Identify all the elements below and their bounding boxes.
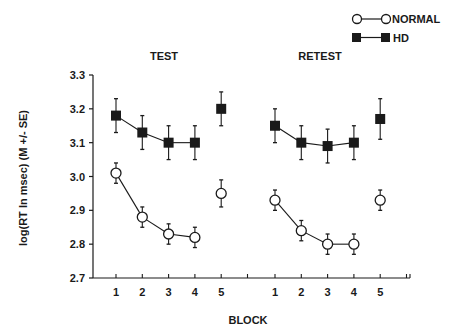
x-axis-label: BLOCK bbox=[228, 314, 267, 326]
legend-hd: HD bbox=[352, 32, 409, 44]
series-hd-retest bbox=[270, 99, 385, 163]
x-tick-label: 4 bbox=[351, 286, 358, 298]
y-tick-label: 3.1 bbox=[70, 137, 85, 149]
data-point-square bbox=[164, 138, 174, 148]
data-point-circle bbox=[375, 195, 385, 205]
y-tick-label: 3.2 bbox=[70, 103, 85, 115]
x-tick-label: 1 bbox=[272, 286, 278, 298]
x-tick-label: 3 bbox=[325, 286, 331, 298]
plot-area bbox=[111, 92, 385, 254]
data-point-circle bbox=[296, 226, 306, 236]
data-point-circle bbox=[137, 212, 147, 222]
data-point-square bbox=[323, 141, 333, 151]
data-point-square bbox=[190, 138, 200, 148]
y-tick-label: 3.3 bbox=[70, 69, 85, 81]
data-point-square bbox=[296, 138, 306, 148]
y-tick-label: 2.9 bbox=[70, 204, 85, 216]
data-point-square bbox=[349, 138, 359, 148]
y-tick-label: 2.8 bbox=[70, 238, 85, 250]
series-normal-test bbox=[111, 163, 226, 248]
x-tick-label: 1 bbox=[113, 286, 119, 298]
panel-title-retest: RETEST bbox=[298, 50, 342, 62]
data-point-circle bbox=[270, 195, 280, 205]
data-point-square bbox=[375, 114, 385, 124]
data-point-square bbox=[270, 121, 280, 131]
data-point-circle bbox=[323, 239, 333, 249]
panel-title-test: TEST bbox=[150, 50, 178, 62]
series-normal-retest bbox=[270, 190, 385, 254]
legend: NORMAL HD bbox=[352, 13, 441, 44]
x-tick-label: 5 bbox=[377, 286, 383, 298]
reaction-time-chart: NORMAL HD TEST RETEST log(RT In msec) (M… bbox=[0, 0, 461, 335]
x-tick-label: 4 bbox=[192, 286, 199, 298]
legend-hd-label: HD bbox=[393, 32, 409, 44]
x-tick-label: 5 bbox=[218, 286, 224, 298]
x-tick-label: 3 bbox=[166, 286, 172, 298]
data-point-circle bbox=[164, 229, 174, 239]
legend-normal: NORMAL bbox=[353, 13, 441, 25]
data-point-square bbox=[216, 104, 226, 114]
data-point-square bbox=[137, 128, 147, 138]
y-axis-label: log(RT In msec) (M +/- SE) bbox=[17, 110, 29, 246]
data-point-circle bbox=[190, 232, 200, 242]
series-hd-test bbox=[111, 92, 226, 160]
legend-normal-label: NORMAL bbox=[392, 13, 441, 25]
x-tick-label: 2 bbox=[298, 286, 304, 298]
x-tick-label: 2 bbox=[139, 286, 145, 298]
data-point-circle bbox=[216, 188, 226, 198]
data-point-circle bbox=[349, 239, 359, 249]
data-point-square bbox=[111, 111, 121, 121]
y-tick-label: 2.7 bbox=[70, 272, 85, 284]
data-point-circle bbox=[111, 168, 121, 178]
y-tick-label: 3.0 bbox=[70, 171, 85, 183]
axes: 2.72.82.93.03.13.23.31234512345 bbox=[70, 69, 410, 298]
